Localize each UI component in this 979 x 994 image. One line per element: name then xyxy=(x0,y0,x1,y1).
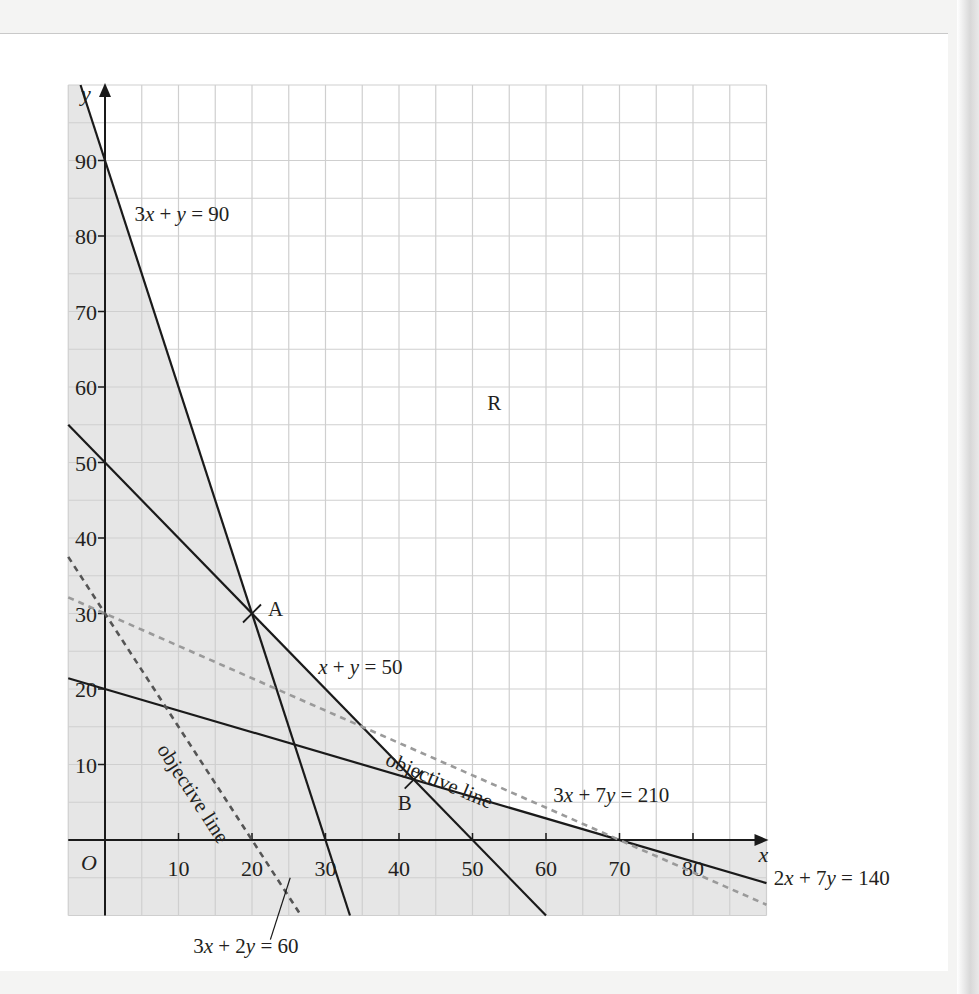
y-tick-label: 50 xyxy=(75,451,97,476)
y-tick-label: 60 xyxy=(75,375,97,400)
x-tick-label: 60 xyxy=(535,856,557,881)
point-label-a: A xyxy=(268,597,284,621)
annotation-3x-y-90: 3x + y = 90 xyxy=(134,202,229,226)
x-tick-label: 50 xyxy=(462,856,484,881)
annotation-x-y-50: x + y = 50 xyxy=(317,655,402,679)
origin-label: O xyxy=(81,850,97,875)
x-tick-label: 70 xyxy=(609,856,631,881)
x-axis-label: x xyxy=(758,842,769,867)
y-tick-label: 10 xyxy=(75,753,97,778)
y-tick-label: 30 xyxy=(75,602,97,627)
y-tick-label: 80 xyxy=(75,224,97,249)
y-tick-label: 70 xyxy=(75,300,97,325)
region-label-r: R xyxy=(487,391,501,415)
x-tick-label: 40 xyxy=(388,856,410,881)
linear-programming-chart: 1020304050607080102030405060708090Oxy AB… xyxy=(0,0,979,994)
y-tick-label: 40 xyxy=(75,526,97,551)
annotation-3x-2y-60: 3x + 2y = 60 xyxy=(193,934,298,958)
x-tick-label: 10 xyxy=(168,856,190,881)
y-tick-label: 90 xyxy=(75,149,97,174)
annotation-3x-7y-210: 3x + 7y = 210 xyxy=(553,783,669,807)
annotation-2x-7y-140: 2x + 7y = 140 xyxy=(774,866,890,890)
point-label-b: B xyxy=(398,791,412,815)
x-tick-label: 30 xyxy=(315,856,337,881)
x-tick-label: 20 xyxy=(241,856,263,881)
